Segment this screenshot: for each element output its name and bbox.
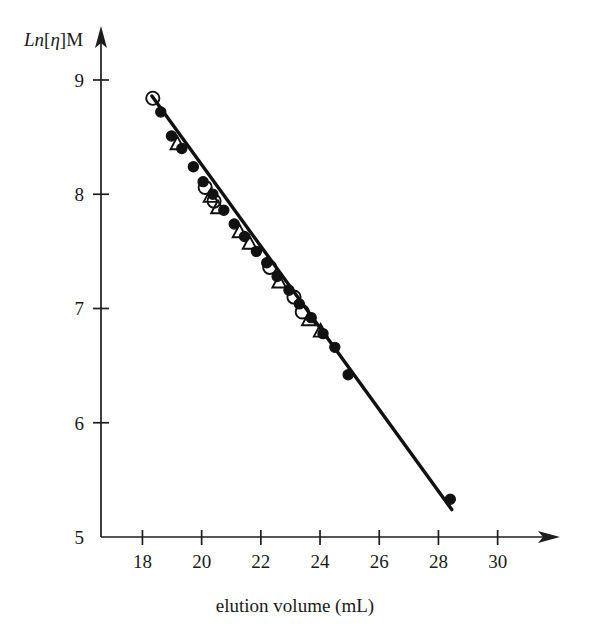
x-tick-label: 22 [251,551,270,572]
data-point-filled-circle [156,107,166,117]
x-tick-label: 24 [311,551,331,572]
y-tick-labels: 56789 [75,70,85,548]
data-point-filled-circle [239,231,249,241]
y-tick-label: 7 [75,298,85,319]
x-axis-group: 18202224262830 [101,530,560,572]
y-axis-title-italic-ln: Ln [23,29,44,50]
y-tick-label: 6 [75,413,85,434]
data-point-filled-circle [198,177,208,187]
y-axis-group: 56789 [75,26,110,548]
y-axis-title-m: M [66,29,83,50]
eta-glyph: η [50,29,59,50]
data-point-filled-circle [318,329,328,339]
data-point-filled-circle [177,143,187,153]
data-point-filled-circle [251,246,261,256]
calibration-scatter-plot: 56789 18202224262830 Ln[η]M elution volu… [0,0,589,634]
data-point-filled-circle [294,299,304,309]
data-point-filled-circle [188,162,198,172]
x-tick-label: 30 [488,551,507,572]
x-tick-label: 20 [192,551,211,572]
x-axis-title: elution volume (mL) [216,595,374,617]
data-point-filled-circle [219,205,229,215]
data-point-filled-circle [166,131,176,141]
x-tick-labels: 18202224262830 [133,551,507,572]
data-point-filled-circle [284,285,294,295]
y-tick-label: 8 [75,184,85,205]
data-point-filled-circle [330,342,340,352]
data-point-filled-circle [272,271,282,281]
y-axis-title: Ln[η]M [23,29,83,50]
data-point-filled-circle [343,370,353,380]
data-point-filled-circle [306,313,316,323]
data-point-filled-circle [445,494,455,504]
data-point-filled-circle [262,258,272,268]
data-point-filled-circle [229,219,239,229]
data-point-filled-circle [208,189,218,199]
y-tick-label: 9 [75,70,85,91]
y-tick-label: 5 [75,527,85,548]
chart-figure: 56789 18202224262830 Ln[η]M elution volu… [0,0,589,634]
x-tick-label: 28 [429,551,448,572]
x-tick-label: 26 [370,551,389,572]
x-tick-label: 18 [133,551,152,572]
